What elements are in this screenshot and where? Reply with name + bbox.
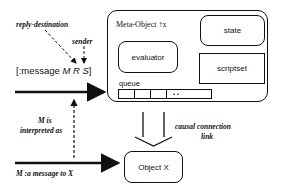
reply-destination-label: reply-destination <box>16 21 68 29</box>
queue-cell <box>151 90 167 98</box>
message-args: M R S <box>62 65 88 76</box>
state-box[interactable]: state <box>200 15 265 46</box>
message-to-x-label: M :a message to X <box>16 170 73 178</box>
message-suffix: ] <box>89 65 92 76</box>
meta-object-title: Meta-Object ↑x <box>116 21 166 29</box>
evaluator-box[interactable]: evaluator <box>118 41 178 73</box>
m-is-label: M is <box>38 117 52 125</box>
sender-label: sender <box>72 38 92 46</box>
causal-connection-label: causal connection <box>175 123 231 131</box>
queue-row: • • <box>118 89 212 99</box>
queue-cell <box>135 90 151 98</box>
object-x-box[interactable]: Object X <box>124 151 183 183</box>
scriptset-box[interactable]: scriptset <box>199 53 265 84</box>
queue-ellipsis: • • <box>167 90 211 98</box>
queue-cell <box>119 90 135 98</box>
reply-destination-pointer <box>45 30 76 63</box>
causal-link-label: link <box>201 133 213 141</box>
queue-label: queue <box>119 80 140 88</box>
message-prefix: [:message <box>16 65 62 76</box>
interpreted-as-label: interpreted as <box>20 127 62 135</box>
causal-connection-arrow <box>135 112 172 146</box>
message-form: [:message M R S] <box>16 66 92 76</box>
